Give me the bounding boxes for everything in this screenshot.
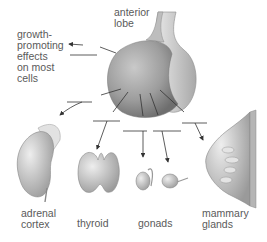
thyroid-illustration — [78, 152, 119, 192]
label-anterior-lobe: anterior lobe — [114, 7, 150, 29]
mammary-glands-illustration — [206, 110, 256, 208]
label-adrenal-cortex: adrenal cortex — [21, 208, 56, 230]
label-thyroid: thyroid — [77, 218, 109, 229]
gonads-illustration — [136, 169, 188, 190]
anterior-lobe-shape — [107, 41, 178, 118]
label-growth-effects: growth- promoting effects on most cells — [17, 29, 64, 84]
label-gonads: gonads — [138, 218, 172, 229]
label-mammary-glands: mammary glands — [202, 208, 249, 230]
adrenal-cortex-illustration — [17, 124, 60, 202]
